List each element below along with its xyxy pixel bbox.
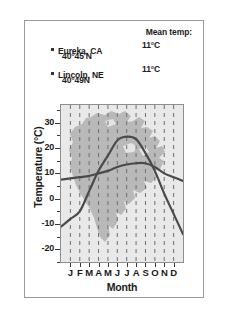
x-tick-label: D <box>168 267 180 278</box>
legend-coordinates-eureka: 40°45'N <box>62 51 92 61</box>
chart-legend: Mean temp: Eureka, CA 40°45'N 11°C Linco… <box>25 21 205 91</box>
y-tick-label: 0 <box>49 193 54 203</box>
y-tick-label: -20 <box>42 243 54 253</box>
y-tick-label: 20 <box>44 142 54 152</box>
legend-header: Mean temp: <box>146 27 192 37</box>
figure-panel: Mean temp: Eureka, CA 40°45'N 11°C Linco… <box>24 20 204 298</box>
legend-mean-temp-lincoln: 11°C <box>142 64 160 74</box>
square-bullet-icon <box>51 72 54 75</box>
y-tick-label: 10 <box>44 167 54 177</box>
plot-area: Temperature (°C) 3020100-10-20 JFMAMJJAS… <box>25 91 205 299</box>
legend-coordinates-lincoln: 40°49N <box>62 75 90 85</box>
legend-mean-temp-eureka: 11°C <box>142 40 160 50</box>
y-tick-label: 30 <box>44 117 54 127</box>
square-bullet-icon <box>51 48 54 51</box>
plot-canvas <box>60 104 184 263</box>
x-axis-label: Month <box>60 281 184 293</box>
y-tick-label: -10 <box>42 218 54 228</box>
x-axis-tick-labels: JFMAMJJASOND <box>60 267 184 281</box>
y-axis-tick-labels: 3020100-10-20 <box>25 104 54 263</box>
chart-svg <box>61 105 183 262</box>
